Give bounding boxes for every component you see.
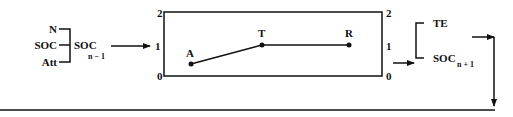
- input-group: N SOC Att SOC n − 1: [34, 23, 105, 68]
- output-soc-label: SOC: [433, 52, 456, 64]
- input-output-label: SOC: [74, 39, 97, 51]
- point-t-label: T: [258, 27, 266, 39]
- right-axis: 2 1 0: [386, 7, 392, 82]
- point-r: [347, 43, 352, 48]
- input-output-subscript: n − 1: [88, 52, 105, 61]
- right-axis-tick-0: 0: [386, 70, 392, 82]
- point-a-label: A: [186, 47, 194, 59]
- input-bracket: [59, 29, 70, 62]
- point-t: [260, 43, 265, 48]
- output-bracket: [416, 23, 424, 58]
- left-axis-tick-0: 0: [157, 70, 163, 82]
- flow-diagram: N SOC Att SOC n − 1 2 1 0 2 1 0 A T R TE…: [0, 0, 513, 117]
- path-line: [191, 45, 349, 64]
- right-axis-tick-1: 1: [386, 40, 392, 52]
- output-te-label: TE: [433, 17, 448, 29]
- left-axis: 2 1 0: [155, 7, 163, 82]
- point-r-label: R: [345, 27, 354, 39]
- input-soc-label: SOC: [34, 39, 57, 51]
- input-n-label: N: [49, 23, 57, 35]
- output-group: TE SOC n + 1: [416, 17, 474, 69]
- left-axis-tick-1: 1: [155, 40, 161, 52]
- input-att-label: Att: [42, 56, 58, 68]
- output-soc-subscript: n + 1: [457, 60, 474, 69]
- right-axis-tick-2: 2: [386, 7, 392, 19]
- point-a: [189, 62, 194, 67]
- left-axis-tick-2: 2: [157, 7, 163, 19]
